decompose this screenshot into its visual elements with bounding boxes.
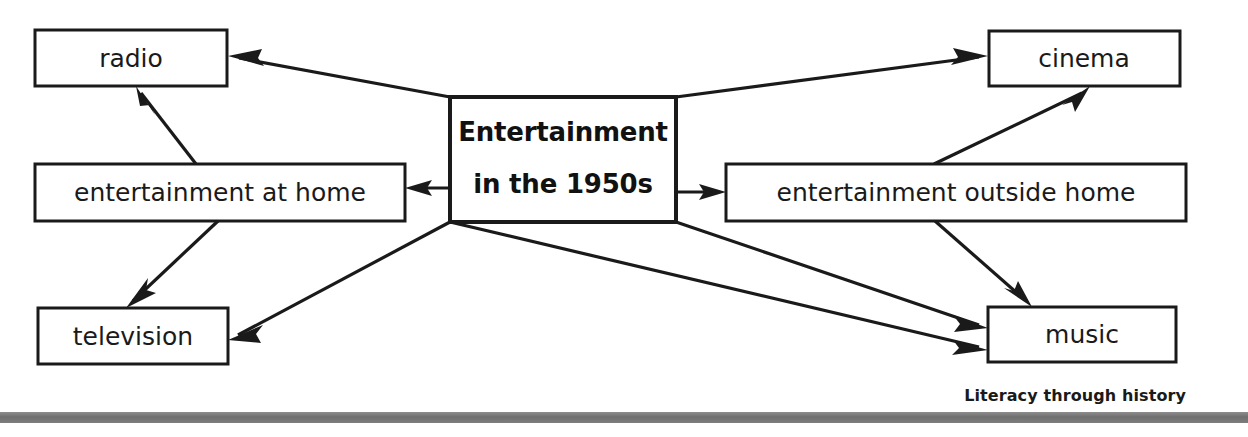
edge-entertainment-at-home-to-radio (141, 93, 196, 164)
node-center-entertainment-1950s[interactable]: Entertainment in the 1950s (450, 97, 676, 222)
arrowhead-radio-from-center (228, 49, 264, 66)
diagram-page: radio entertainment at home television c… (0, 0, 1248, 437)
node-label-television: television (73, 322, 193, 351)
edge-center-to-radio (239, 58, 450, 97)
arrowhead-radio-from-home (136, 86, 155, 115)
edge-center-right-to-music (676, 222, 979, 325)
node-label-center-line2: in the 1950s (473, 169, 653, 199)
arrowhead-cinema-from-center (951, 48, 988, 65)
node-label-center-line1: Entertainment (458, 117, 668, 147)
node-radio[interactable]: radio (35, 30, 227, 86)
edge-center-left-to-music (450, 222, 979, 347)
arrowhead-television-from-center (228, 325, 263, 343)
node-music[interactable]: music (988, 307, 1176, 362)
edge-entertainment-outside-home-to-music (935, 221, 1025, 300)
edge-entertainment-outside-home-to-cinema (934, 93, 1082, 164)
node-label-cinema: cinema (1038, 44, 1130, 73)
node-entertainment-at-home[interactable]: entertainment at home (35, 164, 405, 221)
arrowhead-music-from-center-right (953, 315, 988, 332)
node-television[interactable]: television (38, 308, 228, 364)
node-cinema[interactable]: cinema (989, 31, 1180, 86)
edge-center-to-television (238, 222, 450, 335)
bottom-gray-bar (0, 412, 1248, 423)
node-label-music: music (1045, 320, 1119, 349)
arrowhead-music-from-center-left (952, 340, 988, 355)
node-label-radio: radio (99, 44, 163, 73)
edge-center-to-cinema (676, 57, 979, 97)
node-entertainment-outside-home[interactable]: entertainment outside home (726, 164, 1186, 221)
concept-map-diagram: radio entertainment at home television c… (0, 0, 1248, 437)
node-label-entertainment-outside-home: entertainment outside home (777, 178, 1136, 207)
node-label-entertainment-at-home: entertainment at home (74, 178, 366, 207)
footer-caption: Literacy through history (964, 386, 1186, 405)
